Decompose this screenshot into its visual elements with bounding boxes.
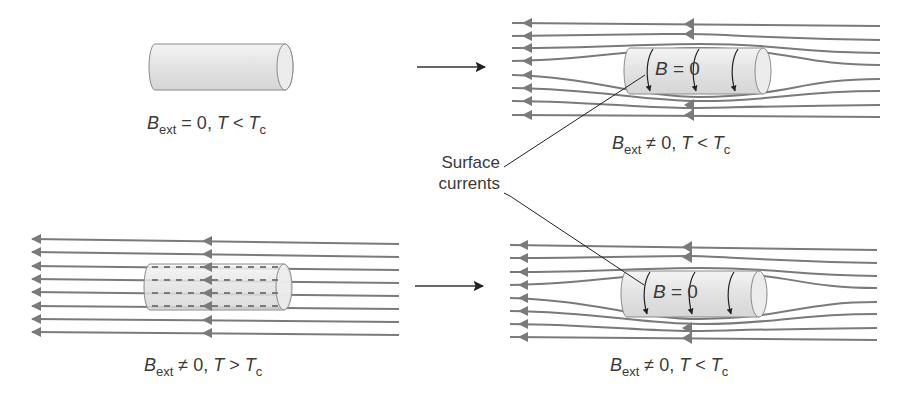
caption-bottom-left: Bext ≠ 0, T > Tc xyxy=(144,355,262,379)
surface-currents-label: Surface currents xyxy=(410,152,500,194)
meissner-effect-diagram xyxy=(0,0,911,402)
caption-top-right: Bext ≠ 0, T < Tc xyxy=(612,133,730,157)
cylinder-no-field xyxy=(149,44,293,90)
caption-bottom-right: Bext ≠ 0, T < Tc xyxy=(610,355,728,379)
superconductor-cylinder-normal xyxy=(144,264,292,310)
inner-field-label-bottom: B = 0 xyxy=(653,281,698,303)
caption-top-left: Bext = 0, T < Tc xyxy=(147,113,266,137)
inner-field-label-top: B = 0 xyxy=(655,58,700,80)
annotation-leader-lines xyxy=(504,75,645,285)
